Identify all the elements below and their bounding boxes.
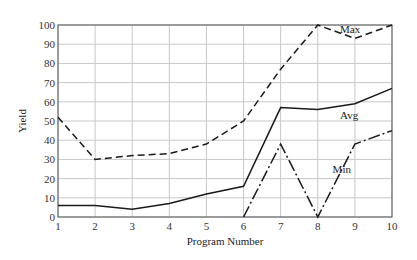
y-tick-label: 10	[44, 192, 56, 204]
x-tick-label: 9	[352, 220, 358, 232]
x-axis-ticks: 12345678910	[55, 220, 398, 232]
y-tick-label: 70	[44, 77, 56, 89]
x-tick-label: 1	[55, 220, 61, 232]
x-tick-label: 8	[315, 220, 321, 232]
series-line-max	[58, 25, 392, 159]
line-chart: 0102030405060708090100 12345678910 MaxAv…	[0, 0, 417, 260]
y-tick-label: 90	[44, 38, 56, 50]
x-axis-label: Program Number	[187, 235, 264, 247]
y-tick-label: 50	[44, 115, 56, 127]
y-tick-label: 100	[39, 19, 56, 31]
y-axis-ticks: 0102030405060708090100	[39, 19, 56, 223]
annotation-avg: Avg	[340, 109, 359, 121]
y-tick-label: 60	[44, 96, 56, 108]
x-tick-label: 3	[129, 220, 135, 232]
annotation-min: Min	[333, 163, 352, 175]
series-annotations: MaxAvgMin	[333, 23, 361, 175]
x-tick-label: 5	[204, 220, 210, 232]
annotation-max: Max	[340, 23, 361, 35]
x-tick-label: 2	[92, 220, 98, 232]
y-tick-label: 30	[44, 153, 56, 165]
y-tick-label: 80	[44, 57, 56, 69]
series-line-avg	[58, 88, 392, 209]
x-tick-label: 6	[241, 220, 247, 232]
x-tick-label: 4	[167, 220, 173, 232]
y-tick-label: 40	[44, 134, 56, 146]
x-tick-label: 10	[387, 220, 399, 232]
y-tick-label: 20	[44, 173, 56, 185]
x-tick-label: 7	[278, 220, 284, 232]
y-axis-label: Yield	[16, 109, 28, 133]
